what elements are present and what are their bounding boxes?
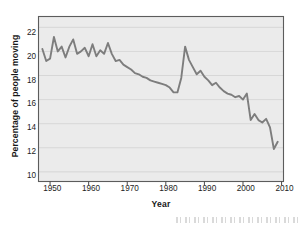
chart-figure: Percentage of people moving 22 20 18 16 … (0, 0, 301, 227)
line-chart-plot (0, 0, 301, 227)
scan-artifact-strip (176, 217, 298, 223)
